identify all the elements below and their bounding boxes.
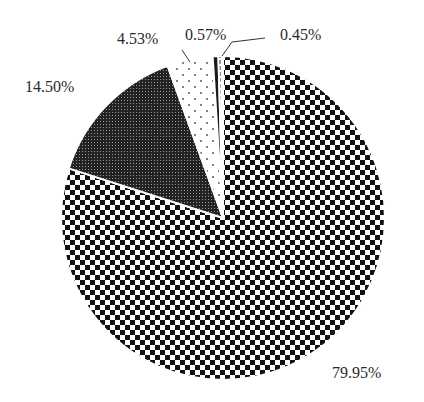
slice-label-14-50: 14.50% [25, 78, 74, 96]
slice-label-0-45: 0.45% [280, 26, 321, 44]
leader-line-0-45 [222, 38, 265, 56]
slice-label-4-53: 4.53% [117, 30, 158, 48]
slice-label-79-95: 79.95% [332, 364, 381, 382]
pie-chart [0, 0, 424, 402]
slice-label-0-57: 0.57% [185, 26, 226, 44]
pie-slices [61, 56, 385, 380]
